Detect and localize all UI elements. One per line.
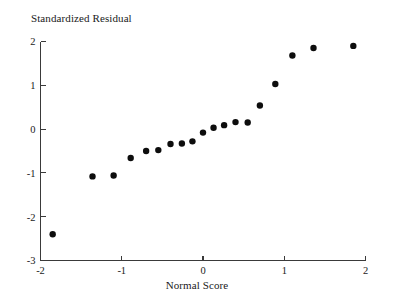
- x-tick-label: 2: [363, 265, 368, 276]
- data-point: [289, 52, 295, 58]
- x-tick-label: 0: [200, 265, 205, 276]
- data-point: [155, 147, 161, 153]
- data-point: [272, 81, 278, 87]
- data-point: [179, 140, 185, 146]
- data-point: [89, 173, 95, 179]
- data-point: [127, 155, 133, 161]
- tick-labels: 210-1-2-3-2-1012: [27, 36, 368, 275]
- axes: [41, 42, 366, 261]
- data-point: [210, 125, 216, 131]
- data-point: [200, 129, 206, 135]
- y-tick-label: 2: [30, 36, 35, 47]
- y-tick-label: -1: [27, 168, 36, 179]
- data-points: [49, 43, 356, 238]
- normal-probability-plot: Standardized Residual 210-1-2-3-2-1012 N…: [0, 0, 394, 305]
- data-point: [350, 43, 356, 49]
- data-point: [167, 141, 173, 147]
- data-point: [257, 102, 263, 108]
- data-point: [310, 45, 316, 51]
- data-point: [143, 148, 149, 154]
- data-point: [244, 119, 250, 125]
- x-axis-title: Normal Score: [0, 279, 394, 291]
- data-point: [189, 138, 195, 144]
- x-tick-label: -2: [36, 265, 45, 276]
- y-tick-label: -2: [27, 212, 36, 223]
- data-point: [221, 122, 227, 128]
- y-tick-label: 0: [30, 124, 35, 135]
- x-tick-label: -1: [117, 265, 126, 276]
- plot-area: 210-1-2-3-2-1012: [0, 0, 394, 305]
- tick-marks: [41, 42, 366, 261]
- data-point: [110, 172, 116, 178]
- y-tick-label: 1: [30, 80, 35, 91]
- y-tick-label: -3: [27, 255, 36, 266]
- data-point: [49, 231, 55, 237]
- data-point: [232, 119, 238, 125]
- x-tick-label: 1: [282, 265, 287, 276]
